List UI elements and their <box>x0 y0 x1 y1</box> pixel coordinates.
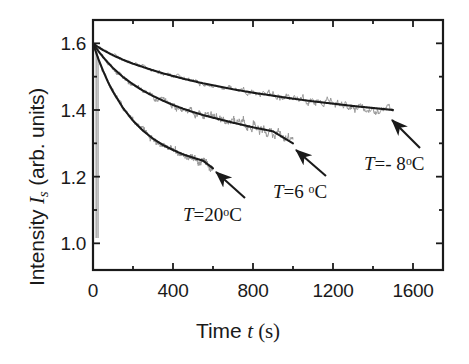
x-axis-title-post: (s) <box>253 319 280 343</box>
series-label-minus8-unit: C <box>412 153 425 174</box>
series-label-six-value: 6 <box>294 181 308 202</box>
series-label-twenty-eq: = <box>194 204 205 225</box>
x-tick-label: 800 <box>223 281 283 300</box>
x-tick-label: 1600 <box>383 281 443 300</box>
series-label-twenty: T=20oC <box>183 205 242 224</box>
series-label-six-symbol: T <box>273 181 284 202</box>
series-label-minus8-symbol: T <box>364 153 375 174</box>
y-tick-label: 1.4 <box>42 101 86 120</box>
series-label-minus8: T=- 8oC <box>364 154 424 173</box>
x-tick-label: 0 <box>63 281 123 300</box>
series-label-minus8-value: - 8 <box>385 153 406 174</box>
series-label-six: T=6 oC <box>273 182 327 201</box>
series-label-six-unit: C <box>314 181 327 202</box>
y-tick-label: 1.2 <box>42 168 86 187</box>
y-axis-symbol: I <box>25 197 49 204</box>
x-tick-label: 400 <box>143 281 203 300</box>
series-label-twenty-symbol: T <box>183 204 194 225</box>
x-axis-title: Time t (s) <box>196 320 280 342</box>
y-axis-subscript: s <box>35 191 51 197</box>
y-tick-label: 1.0 <box>42 234 86 253</box>
series-label-twenty-value: 20 <box>204 204 223 225</box>
y-tick-label: 1.6 <box>42 34 86 53</box>
figure-container: Intensity Is (arb. units) Time t (s) 040… <box>0 0 469 364</box>
series-label-twenty-unit: C <box>229 204 242 225</box>
x-tick-label: 1200 <box>303 281 363 300</box>
series-label-six-eq: = <box>284 181 295 202</box>
series-label-minus8-eq: = <box>375 153 386 174</box>
x-axis-title-pre: Time <box>196 319 247 342</box>
plot-background <box>93 20 443 270</box>
